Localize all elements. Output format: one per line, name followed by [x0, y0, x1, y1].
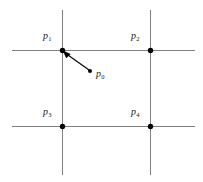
point-label-p1-sub: 1 — [48, 35, 51, 42]
point-dot-p0 — [88, 69, 92, 73]
point-dot-p3 — [60, 124, 65, 129]
point-label-p0: p0 — [96, 69, 104, 79]
point-label-p2: p2 — [131, 31, 139, 41]
grid-lines-group — [12, 10, 195, 175]
point-label-p4: p4 — [131, 107, 139, 117]
vector-p0-to-p1 — [66, 53, 90, 70]
point-label-p3: p3 — [43, 107, 51, 117]
figure-canvas — [0, 0, 203, 182]
vector-group — [63, 51, 89, 70]
point-label-p0-sub: 0 — [101, 73, 104, 80]
point-label-p2-sub: 2 — [136, 35, 139, 42]
point-label-p1: p1 — [43, 31, 51, 41]
point-dot-p4 — [148, 124, 153, 129]
point-label-p4-sub: 4 — [136, 111, 139, 118]
point-dot-p1 — [60, 48, 65, 53]
point-dot-p2 — [148, 48, 153, 53]
geometry-figure: p1 p2 p3 p4 p0 — [0, 0, 203, 182]
point-label-p3-sub: 3 — [48, 111, 51, 118]
